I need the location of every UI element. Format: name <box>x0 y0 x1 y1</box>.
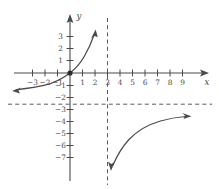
right-branch-curve <box>108 113 192 171</box>
x-tick-label: 1 <box>80 78 85 87</box>
left-branch-arrowhead <box>12 88 21 94</box>
y-tick-label: 1 <box>58 56 63 65</box>
y-axis: 3 2 1 −1 −2 −3 −4 −5 −6 −7 y <box>55 11 81 181</box>
lower-branch-arrowhead <box>108 162 115 171</box>
x-tick-label: 6 <box>143 78 148 87</box>
right-branch-arrowhead <box>182 113 191 119</box>
upper-branch-arrowhead <box>91 30 98 39</box>
y-axis-tick-labels: 3 2 1 −1 −2 −3 −4 −5 −6 −7 <box>55 32 66 162</box>
y-tick-label: −3 <box>55 105 66 114</box>
y-tick-label: −2 <box>55 93 66 102</box>
x-tick-label: 5 <box>130 78 135 87</box>
x-axis: −3 −2 −1 1 2 3 4 5 6 7 8 9 x <box>14 70 210 88</box>
y-tick-label: −1 <box>55 81 66 90</box>
graph-canvas: −3 −2 −1 1 2 3 4 5 6 7 8 9 x <box>0 0 219 189</box>
y-tick-label: −7 <box>55 153 66 162</box>
x-tick-label: 2 <box>93 78 98 87</box>
y-tick-label: −5 <box>55 129 66 138</box>
origin-point <box>67 70 72 75</box>
x-tick-label: 8 <box>168 78 173 87</box>
x-axis-label: x <box>205 77 210 87</box>
x-tick-label: −3 <box>27 78 38 87</box>
y-tick-label: 2 <box>58 44 63 53</box>
y-tick-label: −6 <box>55 141 66 150</box>
y-tick-label: −4 <box>55 117 66 126</box>
x-axis-tick-labels: −3 −2 −1 1 2 3 4 5 6 7 8 9 <box>27 78 185 87</box>
x-tick-label: 9 <box>180 78 185 87</box>
function-graph-figure: −3 −2 −1 1 2 3 4 5 6 7 8 9 x <box>0 0 219 189</box>
y-axis-label: y <box>76 11 82 21</box>
x-tick-label: 7 <box>155 78 160 87</box>
x-tick-label: 4 <box>118 78 123 87</box>
y-tick-label: 3 <box>58 32 63 41</box>
